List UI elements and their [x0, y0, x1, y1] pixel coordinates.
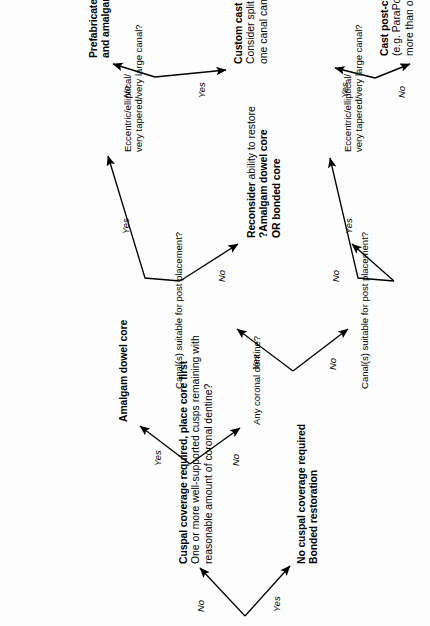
node-reconsider-bold: Reconsider [246, 182, 257, 238]
node-cuspal-coverage-line3: reasonable amount of coronal dentine? [203, 335, 215, 564]
node-eccentric-canal-upper: Eccentric/elliptical/ very tapered/very … [122, 24, 145, 152]
edge-label-cuspal-yes: Yes [152, 450, 163, 466]
node-custom-cast-line3: one canal can be utilised [258, 0, 270, 64]
node-canal-suitable-upper-label: Canal(s) suitable for post placement? [173, 232, 184, 389]
node-amalgam-dowel-core-label: Amalgam dowel core [118, 320, 130, 422]
node-any-coronal-dentine-label: Any coronal dentine? [251, 336, 262, 425]
node-prefabricated-post-line1: Prefabricated post (in suitable canal) [88, 0, 100, 58]
edge-root-yes [245, 566, 290, 616]
node-reconsider-line2: ?Amalgam dowel core [258, 106, 270, 238]
node-canal-suitable-lower-label: Canal(s) suitable for post placement? [359, 232, 370, 389]
node-any-coronal-dentine: Any coronal dentine? [251, 336, 262, 425]
edge-coronal-yes [237, 329, 293, 371]
edge-ecc-upper-yes [155, 70, 226, 77]
node-no-cuspal-coverage: No cuspal coverage required Bonded resto… [296, 424, 321, 564]
edge-root-no [200, 568, 245, 616]
edge-ecc-lower-no [375, 64, 410, 78]
node-reconsider-line3: OR bonded core [271, 106, 283, 238]
node-cast-post-core-prefab-pattern: Cast post-core with prefabricated patter… [379, 0, 416, 56]
edge-label-coronal-no: No [327, 358, 338, 370]
edge-label-cuspal-no: No [230, 454, 241, 466]
node-eccentric-canal-lower-line1: Eccentric/elliptical/ [342, 24, 353, 152]
node-reconsider-line1: Reconsider ability to restore [246, 106, 258, 238]
node-reconsider-ability: Reconsider ability to restore ?Amalgam d… [246, 106, 283, 238]
node-canal-suitable-lower: Canal(s) suitable for post placement? [359, 232, 370, 389]
edge-label-ecc-lower-no: No [396, 86, 407, 98]
edge-canal-upper-yes [108, 156, 180, 281]
node-custom-cast-line2: Consider split core if more than [245, 0, 257, 64]
node-no-cuspal-coverage-line1: No cuspal coverage required [296, 424, 308, 564]
node-custom-cast-line1: Custom cast post-core [233, 0, 245, 64]
node-prefabricated-post-line2: and amalgam dowel core [100, 0, 112, 58]
edge-label-ecc-upper-yes: Yes [196, 82, 207, 98]
node-prefabricated-post-bold: Prefabricated post [88, 0, 99, 58]
node-eccentric-canal-lower-line2: very tapered/very large canal? [353, 24, 364, 152]
edge-label-canal-upper-no: No [216, 270, 227, 282]
edge-label-root-yes: Yes [271, 596, 282, 612]
node-reconsider-reg: ability to restore [246, 106, 257, 182]
node-custom-cast-post-core: Custom cast post-core Consider split cor… [233, 0, 270, 64]
node-prefabricated-post: Prefabricated post (in suitable canal) a… [88, 0, 113, 58]
node-eccentric-canal-lower: Eccentric/elliptical/ very tapered/very … [342, 24, 365, 152]
edge-coronal-no [293, 329, 348, 371]
edge-label-canal-upper-yes: Yes [120, 218, 131, 234]
edge-label-canal-lower-yes: Yes [343, 218, 354, 234]
node-eccentric-canal-upper-line2: very tapered/very large canal? [133, 24, 144, 152]
node-cast-post-core-line2: (e.g. ParaPost) OR consider split core i… [391, 0, 403, 56]
edge-label-canal-lower-no: No [330, 270, 341, 282]
node-amalgam-dowel-core: Amalgam dowel core [118, 320, 130, 422]
edge-canal-upper-no [180, 244, 238, 281]
node-no-cuspal-coverage-line2: Bonded restoration [308, 424, 320, 564]
edge-label-root-no: No [195, 600, 206, 612]
node-cast-post-core-line1: Cast post-core with prefabricated patter… [379, 0, 391, 56]
flowchart-canvas: Yes No Yes No Yes No Yes No Yes No No Ye… [0, 0, 430, 626]
node-eccentric-canal-upper-line1: Eccentric/elliptical/ [122, 24, 133, 152]
node-canal-suitable-upper: Canal(s) suitable for post placement? [173, 232, 184, 389]
rotated-diagram-layer: Yes No Yes No Yes No Yes No Yes No No Ye… [0, 0, 430, 626]
node-cast-post-core-line3: more than one canal can be utilised [404, 0, 416, 56]
node-cuspal-coverage-line2: One or more well-supported cusps remaini… [190, 335, 202, 564]
